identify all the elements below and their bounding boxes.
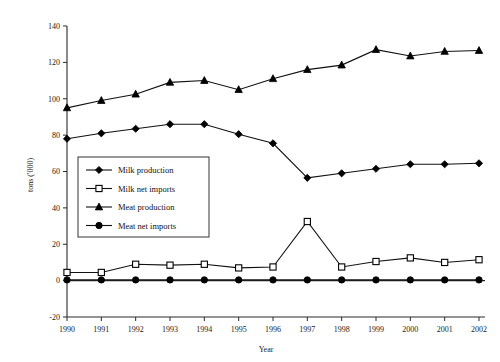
- legend-label: Milk production: [118, 165, 174, 175]
- data-point-marker: [133, 261, 139, 267]
- data-point-marker: [441, 277, 447, 283]
- y-tick-label: 100: [48, 95, 60, 104]
- legend-label: Meat net imports: [118, 221, 176, 231]
- data-point-marker: [373, 277, 379, 283]
- y-tick-label: -20: [49, 313, 60, 322]
- y-tick-label: 80: [52, 131, 60, 140]
- data-point-marker: [96, 185, 102, 191]
- data-point-marker: [407, 161, 414, 168]
- x-axis-title: Year: [259, 345, 274, 354]
- x-tick-label: 1993: [162, 325, 178, 334]
- data-point-marker: [476, 277, 482, 283]
- data-point-marker: [98, 130, 105, 137]
- x-tick-label: 2001: [437, 325, 453, 334]
- data-point-marker: [441, 161, 448, 168]
- x-tick-label: 2002: [471, 325, 487, 334]
- data-point-marker: [96, 222, 102, 228]
- legend-label: Milk net imports: [118, 184, 175, 194]
- y-tick-label: 0: [56, 276, 60, 285]
- x-tick-label: 1992: [128, 325, 144, 334]
- data-point-marker: [304, 277, 310, 283]
- data-point-marker: [63, 135, 70, 142]
- legend-label: Meat production: [118, 202, 175, 212]
- y-tick-label: 60: [52, 167, 60, 176]
- data-point-marker: [98, 269, 104, 275]
- data-point-marker: [98, 277, 104, 283]
- data-point-marker: [476, 257, 482, 263]
- data-point-marker: [270, 277, 276, 283]
- data-point-marker: [236, 265, 242, 271]
- data-point-marker: [235, 277, 241, 283]
- data-point-marker: [338, 170, 345, 177]
- legend-item-milk-production[interactable]: Milk production: [86, 165, 174, 175]
- data-point-marker: [201, 121, 208, 128]
- data-point-marker: [407, 277, 413, 283]
- chart-legend: Milk productionMilk net importsMeat prod…: [78, 157, 209, 237]
- x-tick-label: 1994: [196, 325, 212, 334]
- data-point-marker: [407, 255, 413, 261]
- y-tick-label: 40: [52, 204, 60, 213]
- series-meat-production: [63, 46, 482, 111]
- data-point-marker: [339, 264, 345, 270]
- data-point-marker: [372, 46, 379, 53]
- x-tick-label: 1995: [231, 325, 247, 334]
- data-point-marker: [201, 261, 207, 267]
- y-axis-title: tons ('000): [26, 158, 35, 192]
- data-point-marker: [167, 262, 173, 268]
- data-point-marker: [235, 131, 242, 138]
- data-point-marker: [64, 277, 70, 283]
- data-point-marker: [166, 121, 173, 128]
- data-point-marker: [132, 277, 138, 283]
- data-point-marker: [373, 258, 379, 264]
- data-point-marker: [475, 47, 482, 54]
- x-tick-label: 1996: [265, 325, 281, 334]
- x-tick-label: 1997: [299, 325, 315, 334]
- series-meat-net-imports: [64, 277, 482, 283]
- data-point-marker: [338, 277, 344, 283]
- x-tick-label: 1990: [59, 325, 75, 334]
- data-point-marker: [132, 125, 139, 132]
- x-axis-tick-labels: 1990199119921993199419951996199719981999…: [59, 325, 487, 334]
- data-point-marker: [201, 277, 207, 283]
- y-tick-label: 120: [48, 58, 60, 67]
- legend-item-meat-net-imports[interactable]: Meat net imports: [86, 221, 176, 231]
- legend-item-milk-net-imports[interactable]: Milk net imports: [86, 184, 175, 194]
- data-point-marker: [304, 218, 310, 224]
- chart-container: -20020406080100120140 199019911992199319…: [0, 0, 500, 362]
- x-tick-label: 2000: [402, 325, 418, 334]
- line-chart: -20020406080100120140 199019911992199319…: [0, 0, 500, 362]
- data-point-marker: [475, 160, 482, 167]
- data-point-marker: [167, 277, 173, 283]
- x-tick-label: 1999: [368, 325, 384, 334]
- x-tick-label: 1991: [93, 325, 109, 334]
- data-point-marker: [201, 77, 208, 84]
- x-tick-label: 1998: [334, 325, 350, 334]
- data-point-marker: [64, 269, 70, 275]
- y-axis-tick-labels: -20020406080100120140: [48, 22, 60, 322]
- data-point-marker: [372, 165, 379, 172]
- data-point-marker: [270, 264, 276, 270]
- y-tick-label: 140: [48, 22, 60, 31]
- y-tick-label: 20: [52, 240, 60, 249]
- data-point-marker: [442, 259, 448, 265]
